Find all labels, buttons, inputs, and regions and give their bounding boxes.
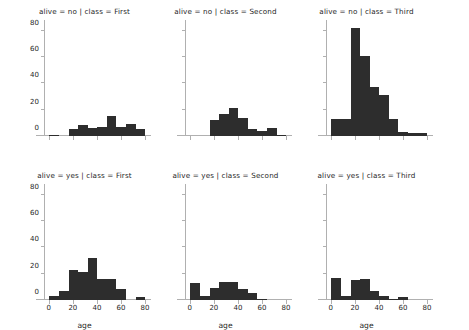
y-axis-spine [44, 184, 45, 300]
histogram-bar [351, 280, 361, 300]
histogram-bar [341, 119, 351, 136]
x-tick [403, 300, 404, 304]
histogram-bar [351, 28, 361, 136]
x-tick [286, 300, 287, 304]
panel-yes-third: alive = yes | class = Third 020406080 ag… [296, 164, 437, 327]
x-tick [427, 300, 428, 304]
plot-area: 0 20 40 60 80 020406080 [44, 184, 151, 300]
panel-title: alive = yes | class = Third [296, 171, 437, 180]
histogram-bar [97, 127, 107, 136]
x-tick-label: 80 [282, 304, 291, 312]
x-tick-label: 60 [398, 304, 407, 312]
y-tick-label: 0 [35, 124, 39, 132]
histogram-bar [331, 278, 341, 300]
histogram-bar [200, 296, 210, 300]
x-axis-label: age [296, 321, 437, 330]
x-tick [427, 136, 428, 140]
x-tick-label: 0 [47, 304, 51, 312]
x-tick [97, 300, 98, 304]
x-tick [355, 300, 356, 304]
x-tick [286, 136, 287, 140]
y-tick-label: 20 [30, 98, 39, 106]
plot-area: 020406080 [185, 184, 292, 300]
y-tick-label: 60 [30, 209, 39, 217]
panel-title: alive = yes | class = Second [155, 171, 296, 180]
histogram-bar [69, 270, 79, 300]
histogram-bar [116, 127, 126, 136]
histogram-bar [88, 128, 97, 136]
histogram-bar [277, 135, 287, 136]
panel-no-second: alive = no | class = Second [155, 0, 296, 164]
x-tick-label: 0 [188, 304, 192, 312]
panel-yes-second: alive = yes | class = Second 020406080 a… [155, 164, 296, 327]
x-tick-label: 20 [350, 304, 359, 312]
x-tick [190, 300, 191, 304]
x-tick [379, 300, 380, 304]
histogram-bar [78, 125, 88, 136]
y-tick-label: 40 [30, 71, 39, 79]
histogram-bar [248, 129, 258, 136]
x-tick-label: 0 [329, 304, 333, 312]
histogram-bar [370, 87, 379, 136]
plot-area: 020406080 [326, 184, 433, 300]
histogram-bar [229, 108, 238, 136]
histogram-bar [116, 289, 126, 300]
x-tick [145, 300, 146, 304]
histogram-bar [379, 296, 389, 300]
x-tick [262, 300, 263, 304]
y-axis-spine [185, 20, 186, 136]
x-tick [190, 136, 191, 140]
histogram-bar [389, 119, 399, 136]
x-tick-label: 40 [92, 304, 101, 312]
histogram-bar [219, 282, 229, 300]
histogram-bar [97, 279, 107, 300]
y-tick-label: 20 [30, 262, 39, 270]
x-tick [73, 136, 74, 140]
histogram-bar [370, 291, 379, 300]
x-tick [49, 136, 50, 140]
y-tick-label: 0 [35, 288, 39, 296]
plot-area [326, 20, 433, 136]
y-tick-label: 80 [30, 19, 39, 27]
x-tick [145, 136, 146, 140]
x-tick [262, 136, 263, 140]
histogram-bar [190, 283, 200, 300]
y-axis-spine [326, 20, 327, 136]
x-tick [331, 136, 332, 140]
histogram-bar [238, 118, 248, 136]
y-tick-label: 60 [30, 45, 39, 53]
x-tick [49, 300, 50, 304]
x-tick-label: 40 [374, 304, 383, 312]
histogram-bar [136, 129, 146, 136]
histogram-bar [418, 133, 428, 136]
x-tick-label: 60 [257, 304, 266, 312]
y-tick-label: 40 [30, 235, 39, 243]
histogram-bar [389, 299, 399, 300]
panel-title: alive = no | class = Second [155, 7, 296, 16]
y-axis-spine [326, 184, 327, 300]
histogram-bar [408, 133, 417, 136]
x-tick [73, 300, 74, 304]
x-tick [238, 300, 239, 304]
x-tick-label: 80 [141, 304, 150, 312]
plot-area [185, 20, 292, 136]
x-axis-label: age [14, 321, 155, 330]
histogram-bar [107, 116, 117, 136]
panel-title: alive = yes | class = First [14, 171, 155, 180]
histogram-bar [210, 120, 220, 136]
x-tick-label: 60 [116, 304, 125, 312]
panel-yes-first: alive = yes | class = First 0 20 40 60 8… [14, 164, 155, 327]
histogram-bar [59, 291, 69, 300]
x-tick [403, 136, 404, 140]
x-tick [238, 136, 239, 140]
x-tick [121, 300, 122, 304]
histogram-bar [88, 258, 97, 300]
histogram-bar [49, 135, 59, 136]
x-tick [331, 300, 332, 304]
histogram-bar [331, 119, 341, 136]
x-tick [379, 136, 380, 140]
facet-row-alive-no: alive = no | class = First 0 20 40 60 80 [0, 0, 469, 164]
x-tick [214, 300, 215, 304]
x-tick [214, 136, 215, 140]
x-tick-label: 20 [209, 304, 218, 312]
